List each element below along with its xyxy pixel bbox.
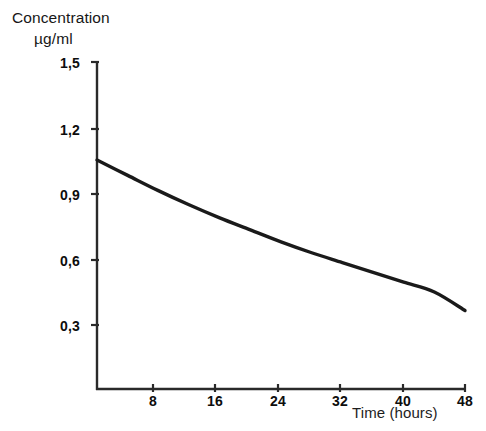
y-tick-label-0-9: 0,9: [36, 187, 80, 203]
x-tick-label-24: 24: [263, 393, 293, 409]
y-tick-label-1-2: 1,2: [36, 122, 80, 138]
y-tick-label-0-6: 0,6: [36, 253, 80, 269]
concentration-time-chart: Concentration µg/ml 1,5 1,2 0,9 0,6: [0, 0, 486, 431]
x-tick-label-32: 32: [325, 393, 355, 409]
y-tick-label-1-5: 1,5: [36, 55, 80, 71]
concentration-decay-curve: [97, 160, 465, 310]
x-tick-label-8: 8: [138, 393, 168, 409]
x-tick-label-48: 48: [450, 393, 480, 409]
y-tick-label-0-3: 0,3: [36, 318, 80, 334]
x-axis-title: Time (hours): [352, 404, 438, 421]
x-tick-label-16: 16: [200, 393, 230, 409]
